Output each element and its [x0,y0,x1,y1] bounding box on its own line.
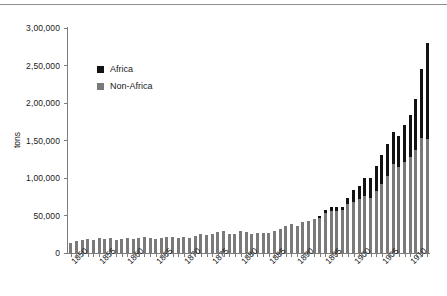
x-axis-tick-mark [399,253,400,257]
y-axis-tick-mark [64,178,68,179]
bar-segment-non-africa [420,138,423,253]
y-axis-tick-label: 50,000 [33,211,64,221]
x-axis-tick-mark [359,253,360,257]
bar-segment-non-africa [177,238,180,253]
x-axis-tick-mark [376,253,377,257]
bar-segment-non-africa [69,243,72,254]
bar-column [392,132,395,253]
bar-column [409,115,412,253]
bar-segment-non-africa [330,211,333,253]
bar-segment-africa [380,155,383,184]
bar-column [290,224,293,253]
y-axis-tick-mark [64,103,68,104]
bar-column [369,178,372,253]
bar-column [177,238,180,253]
bar-segment-non-africa [239,231,242,253]
bar-segment-non-africa [318,218,321,253]
y-axis-tick: 2,50,000 [26,61,68,71]
legend-swatch-icon [97,66,104,73]
y-axis-tick-label: 2,00,000 [26,98,64,108]
legend-item-label: Non-Africa [110,81,153,91]
bar-column [92,240,95,254]
bar-column [149,238,152,253]
x-axis-tick-mark [348,253,349,257]
y-axis-title: tons [12,132,22,148]
bar-segment-non-africa [92,240,95,254]
bar-column [380,155,383,253]
bar-segment-africa [386,144,389,176]
x-axis-tick-mark [144,253,145,257]
bar-column [375,166,378,253]
x-axis-tick-mark [257,253,258,257]
bar-column [363,178,366,253]
x-axis-tick-mark [116,253,117,257]
bar-column [346,198,349,253]
bar-segment-non-africa [290,224,293,253]
y-axis-tick: 1,50,000 [26,136,68,146]
y-axis-tick: 0 [55,248,68,258]
bar-segment-non-africa [341,210,344,253]
bar-segment-africa [369,178,372,198]
y-axis-tick-mark [64,140,68,141]
bar-segment-non-africa [233,234,236,253]
bar-segment-non-africa [324,213,327,253]
bar-column [313,219,316,254]
bar-column [205,235,208,253]
bar-segment-non-africa [392,164,395,253]
top-divider-rule [0,4,447,5]
x-axis-tick-mark [263,253,264,257]
bar-segment-africa [358,186,361,200]
bar-segment-non-africa [426,139,429,253]
y-axis-tick: 1,00,000 [26,173,68,183]
x-axis-tick-mark [161,253,162,257]
bar-segment-non-africa [154,239,157,253]
bar-column [154,239,157,253]
bar-segment-africa [403,125,406,162]
y-axis-tick-mark [64,65,68,66]
legend-item-label: Africa [110,64,133,74]
x-axis-tick-mark [88,253,89,257]
bar-segment-non-africa [358,199,361,253]
bar-column [397,136,400,253]
x-axis-tick-mark [139,253,140,257]
x-axis-tick-mark [252,253,253,257]
x-axis-tick-mark [76,253,77,257]
x-axis-tick-mark [82,253,83,257]
bar-column [239,231,242,253]
bar-segment-africa [414,99,417,150]
bar-segment-non-africa [409,157,412,253]
bar-column [182,237,185,253]
x-axis-tick-mark [371,253,372,257]
y-axis-tick-label: 1,00,000 [26,173,64,183]
y-axis-tick-mark [64,28,68,29]
bar-column [403,125,406,253]
x-axis-tick-mark [224,253,225,257]
x-axis-tick-mark [173,253,174,257]
bar-segment-non-africa [205,235,208,253]
x-axis-tick-mark [405,253,406,257]
x-axis-tick-mark [280,253,281,257]
legend-item: Africa [97,64,153,74]
bar-column [211,234,214,253]
x-axis-tick-mark [388,253,389,257]
bar-segment-non-africa [386,176,389,253]
x-axis-tick-mark [337,253,338,257]
x-axis-tick-mark [427,253,428,257]
x-axis-tick-mark [246,253,247,257]
x-axis-tick-mark [122,253,123,257]
bar-column [330,207,333,253]
bar-column [98,238,101,253]
y-axis-tick-label: 3,00,000 [26,23,64,33]
x-axis-tick-mark [150,253,151,257]
x-axis-tick-mark [308,253,309,257]
bar-segment-africa [426,43,429,139]
bar-column [267,233,270,253]
y-axis-tick: 3,00,000 [26,23,68,33]
bar-column [414,99,417,253]
x-axis-tick-mark [320,253,321,257]
x-axis-tick-mark [303,253,304,257]
bar-column [352,190,355,253]
y-axis-tick: 50,000 [33,211,68,221]
y-axis-tick-mark [64,215,68,216]
bar-column [341,207,344,254]
